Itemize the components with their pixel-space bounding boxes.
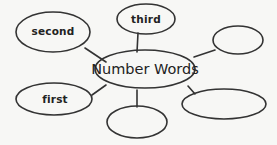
connector-first bbox=[92, 85, 106, 95]
node-second-label: second bbox=[31, 25, 74, 37]
node-blank-bottom-right-ellipse bbox=[182, 89, 266, 119]
center-node-label: Number Words bbox=[91, 61, 199, 77]
connector-third bbox=[137, 33, 138, 52]
node-blank-top-right-ellipse bbox=[213, 26, 263, 54]
node-third-label: third bbox=[131, 13, 161, 25]
connector-second bbox=[85, 48, 106, 62]
connector-top-right bbox=[194, 50, 215, 57]
node-first-label: first bbox=[42, 93, 68, 105]
node-blank-bottom-middle-ellipse bbox=[107, 106, 167, 138]
